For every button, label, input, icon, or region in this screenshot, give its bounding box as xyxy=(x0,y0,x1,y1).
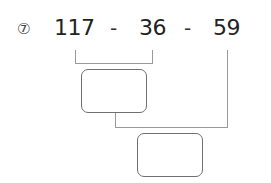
answer-box-1[interactable] xyxy=(81,69,147,113)
minus-operator-1: - xyxy=(110,18,117,38)
bracket-right-line xyxy=(152,50,153,64)
problem-marker: ⑦ xyxy=(17,22,30,37)
operand-59: 59 xyxy=(213,17,240,39)
connector-box1-line xyxy=(115,113,116,128)
answer-box-2[interactable] xyxy=(137,133,203,177)
operand-117: 117 xyxy=(54,17,95,39)
operand-36: 36 xyxy=(139,17,166,39)
bracket-left-line xyxy=(75,50,76,64)
minus-operator-2: - xyxy=(184,18,191,38)
connector-59-line xyxy=(227,50,228,128)
bracket-bottom-line xyxy=(75,63,153,64)
connector-bottom-line xyxy=(115,127,228,128)
